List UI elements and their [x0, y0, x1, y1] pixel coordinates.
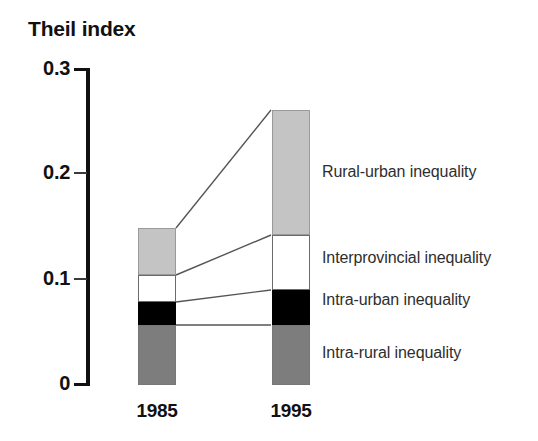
legend-label-interprovincial: Interprovincial inequality [322, 249, 491, 267]
legend-label-intra-rural: Intra-rural inequality [322, 344, 461, 362]
y-axis-label-0.3: 0.3 [43, 57, 70, 80]
bar-1985-segment-interprovincial [138, 275, 176, 302]
chart-title: Theil index [28, 17, 136, 41]
bar-1995-segment-intra-urban [272, 290, 310, 325]
bar-1995-segment-rural-urban [272, 110, 310, 235]
legend-label-rural-urban: Rural-urban inequality [322, 163, 476, 181]
y-tick-0 [74, 383, 90, 386]
y-axis-label-0.2: 0.2 [43, 161, 70, 184]
y-axis-label-0.1: 0.1 [43, 267, 70, 290]
bar-1995-segment-interprovincial [272, 235, 310, 290]
bar-1985-segment-intra-rural [138, 325, 176, 385]
y-tick-0.3 [74, 68, 90, 71]
x-axis-label-1985: 1985 [117, 400, 197, 422]
legend-label-intra-urban: Intra-urban inequality [322, 291, 470, 309]
y-tick-0.2 [74, 172, 87, 174]
y-tick-0.1 [74, 278, 87, 280]
y-axis-line [86, 68, 90, 386]
bar-1995-segment-intra-rural [272, 325, 310, 385]
y-axis-label-0: 0 [59, 372, 70, 395]
x-axis-label-1995: 1995 [251, 400, 331, 422]
bar-1985-segment-rural-urban [138, 228, 176, 275]
bar-1995 [272, 110, 310, 385]
bar-1985-segment-intra-urban [138, 302, 176, 325]
segment-connector-lines [0, 0, 538, 441]
chart-figure: Theil index 0.3 0.2 0.1 0 1985 1995 [0, 0, 538, 441]
bar-1985 [138, 228, 176, 385]
